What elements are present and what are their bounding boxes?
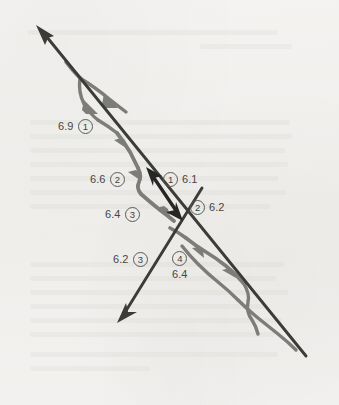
annotation-value: 6.6 bbox=[90, 173, 106, 186]
annotation-marker-circle: 4 bbox=[172, 251, 187, 266]
secondary-transect-arrowhead bbox=[117, 303, 137, 323]
main-transect-line bbox=[42, 31, 306, 356]
annotation-6-2-3: 6.2 3 bbox=[113, 252, 148, 267]
river-flow-arrowhead-braid-left bbox=[82, 100, 98, 114]
annotation-2-6-2: 2 6.2 bbox=[190, 200, 225, 215]
annotation-marker-circle: 2 bbox=[110, 172, 125, 187]
transect-arrows bbox=[36, 25, 306, 356]
annotation-marker-circle: 3 bbox=[133, 252, 148, 267]
annotation-6-6-2: 6.6 2 bbox=[90, 172, 125, 187]
annotation-1-6-1: 1 6.1 bbox=[163, 172, 198, 187]
river-flow-arrowhead-upper bbox=[114, 138, 126, 148]
annotation-value: 6.4 bbox=[172, 268, 188, 281]
annotation-marker-circle: 1 bbox=[78, 119, 93, 134]
annotation-value: 6.2 bbox=[113, 253, 129, 266]
annotation-value: 6.4 bbox=[105, 208, 121, 221]
annotation-value: 6.1 bbox=[182, 173, 198, 186]
annotation-value: 6.2 bbox=[209, 201, 225, 214]
annotation-marker-circle: 3 bbox=[125, 207, 140, 222]
river-flow-arrowhead-middle bbox=[128, 170, 140, 180]
annotation-4-6-4: 4 6.4 bbox=[172, 251, 188, 281]
annotation-6-9-1: 6.9 1 bbox=[58, 119, 93, 134]
annotation-marker-circle: 1 bbox=[163, 172, 178, 187]
annotation-marker-circle: 2 bbox=[190, 200, 205, 215]
figure-canvas: 6.9 1 6.6 2 6.4 3 1 6.1 2 6.2 6.2 3 4 6.… bbox=[0, 0, 339, 405]
annotation-value: 6.9 bbox=[58, 120, 74, 133]
annotation-6-4-3: 6.4 3 bbox=[105, 207, 140, 222]
diagram-artwork bbox=[0, 0, 339, 405]
